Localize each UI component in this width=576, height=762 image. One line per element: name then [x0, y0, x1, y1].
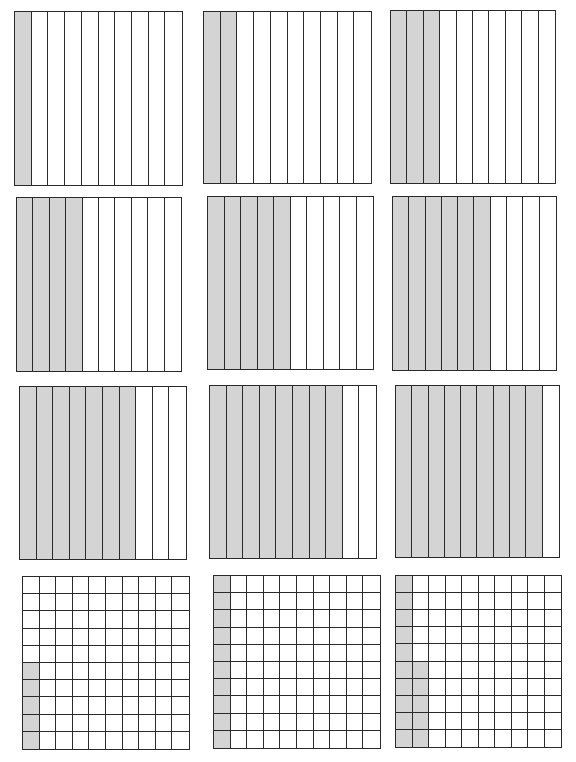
- unshaded-cell: [56, 663, 73, 680]
- unshaded-cell: [314, 696, 331, 713]
- unshaded-cell: [479, 713, 496, 730]
- unshaded-cell: [172, 715, 189, 732]
- unshaded-cell: [446, 730, 463, 747]
- unshaded-cell: [446, 713, 463, 730]
- shaded-cell: [23, 680, 40, 697]
- unshaded-cell: [73, 594, 90, 611]
- shaded-cell: [37, 387, 54, 559]
- unshaded-cell: [123, 646, 140, 663]
- unshaded-cell: [40, 697, 57, 714]
- shaded-cell: [23, 715, 40, 732]
- unshaded-cell: [324, 197, 341, 369]
- unshaded-cell: [40, 732, 57, 749]
- unshaded-cell: [363, 696, 380, 713]
- unshaded-cell: [40, 611, 57, 628]
- shaded-cell: [214, 662, 231, 679]
- unshaded-cell: [446, 696, 463, 713]
- unshaded-cell: [545, 610, 562, 627]
- unshaded-cell: [56, 577, 73, 594]
- unshaded-cell: [495, 627, 512, 644]
- unshaded-cell: [65, 12, 82, 185]
- unshaded-cell: [106, 715, 123, 732]
- unshaded-cell: [545, 713, 562, 730]
- shaded-cell: [276, 386, 293, 558]
- unshaded-cell: [56, 732, 73, 749]
- unshaded-cell: [545, 679, 562, 696]
- unshaded-cell: [156, 680, 173, 697]
- unshaded-cell: [123, 680, 140, 697]
- unshaded-cell: [429, 644, 446, 661]
- unshaded-cell: [545, 627, 562, 644]
- unshaded-cell: [440, 11, 456, 183]
- unshaded-cell: [73, 732, 90, 749]
- unshaded-cell: [446, 662, 463, 679]
- unshaded-cell: [156, 577, 173, 594]
- unshaded-cell: [247, 576, 264, 593]
- unshaded-cell: [429, 662, 446, 679]
- shaded-cell: [15, 12, 32, 185]
- unshaded-cell: [479, 610, 496, 627]
- unshaded-cell: [528, 576, 545, 593]
- unshaded-cell: [231, 593, 248, 610]
- shaded-cell: [17, 198, 33, 371]
- unshaded-cell: [156, 594, 173, 611]
- shaded-cell: [396, 610, 413, 627]
- shaded-cell: [214, 628, 231, 645]
- unshaded-cell: [247, 593, 264, 610]
- unshaded-cell: [40, 663, 57, 680]
- unshaded-cell: [330, 593, 347, 610]
- unshaded-cell: [231, 696, 248, 713]
- unshaded-cell: [479, 679, 496, 696]
- shaded-cell: [413, 730, 430, 747]
- unshaded-cell: [314, 576, 331, 593]
- unshaded-cell: [330, 679, 347, 696]
- unshaded-cell: [264, 662, 281, 679]
- unshaded-cell: [543, 386, 559, 557]
- shaded-cell: [260, 386, 277, 558]
- unshaded-cell: [495, 713, 512, 730]
- tenths-strip-model: [209, 385, 377, 559]
- shaded-cell: [227, 386, 244, 558]
- shaded-cell: [50, 198, 66, 371]
- unshaded-cell: [297, 593, 314, 610]
- unshaded-cell: [528, 679, 545, 696]
- unshaded-cell: [247, 645, 264, 662]
- unshaded-cell: [528, 730, 545, 747]
- unshaded-cell: [172, 646, 189, 663]
- unshaded-cell: [40, 680, 57, 697]
- unshaded-cell: [495, 644, 512, 661]
- unshaded-cell: [40, 577, 57, 594]
- unshaded-cell: [23, 629, 40, 646]
- unshaded-cell: [139, 611, 156, 628]
- shaded-cell: [214, 714, 231, 731]
- unshaded-cell: [495, 576, 512, 593]
- unshaded-cell: [314, 610, 331, 627]
- unshaded-cell: [99, 12, 116, 185]
- unshaded-cell: [280, 593, 297, 610]
- shaded-cell: [396, 662, 413, 679]
- unshaded-cell: [23, 594, 40, 611]
- shaded-cell: [241, 197, 258, 369]
- unshaded-cell: [136, 387, 153, 559]
- unshaded-cell: [347, 610, 364, 627]
- unshaded-cell: [139, 594, 156, 611]
- unshaded-cell: [512, 696, 529, 713]
- shaded-cell: [396, 679, 413, 696]
- tenths-strip-model: [395, 385, 560, 558]
- unshaded-cell: [528, 593, 545, 610]
- unshaded-cell: [73, 663, 90, 680]
- unshaded-cell: [314, 714, 331, 731]
- unshaded-cell: [314, 593, 331, 610]
- unshaded-cell: [347, 696, 364, 713]
- unshaded-cell: [479, 644, 496, 661]
- unshaded-cell: [89, 715, 106, 732]
- unshaded-cell: [495, 696, 512, 713]
- unshaded-cell: [330, 696, 347, 713]
- unshaded-cell: [139, 697, 156, 714]
- unshaded-cell: [280, 628, 297, 645]
- unshaded-cell: [512, 730, 529, 747]
- unshaded-cell: [115, 12, 132, 185]
- unshaded-cell: [462, 610, 479, 627]
- unshaded-cell: [528, 627, 545, 644]
- unshaded-cell: [522, 11, 538, 183]
